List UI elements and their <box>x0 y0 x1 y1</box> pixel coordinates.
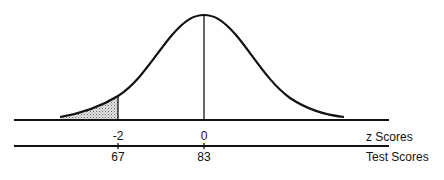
z-tick-label: -2 <box>113 130 124 142</box>
z-axis-label: z Scores <box>366 131 413 143</box>
bell-curve <box>60 15 344 117</box>
test-tick-label: 83 <box>197 151 210 163</box>
z-tick-label: 0 <box>201 130 208 142</box>
test-tick-label: 67 <box>111 151 124 163</box>
test-axis-label: Test Scores <box>366 151 429 163</box>
